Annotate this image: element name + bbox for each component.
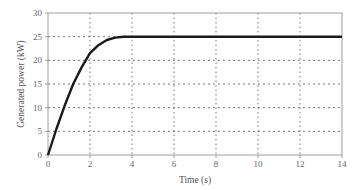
grid-lines bbox=[48, 13, 342, 155]
power-curve bbox=[48, 37, 342, 155]
y-tick-label: 10 bbox=[33, 103, 43, 113]
y-tick-label: 30 bbox=[33, 8, 43, 18]
y-axis-label: Generated power (kW) bbox=[16, 40, 27, 128]
x-tick-label: 0 bbox=[46, 159, 51, 169]
x-tick-label: 4 bbox=[130, 159, 135, 169]
x-tick-label: 6 bbox=[172, 159, 177, 169]
y-tick-label: 5 bbox=[38, 126, 43, 136]
y-tick-label: 0 bbox=[38, 150, 43, 160]
x-tick-label: 8 bbox=[214, 159, 219, 169]
x-tick-label: 12 bbox=[296, 159, 305, 169]
x-axis-label: Time (s) bbox=[179, 175, 211, 186]
y-axis-ticks: 051015202530 bbox=[33, 8, 48, 160]
x-tick-label: 10 bbox=[254, 159, 264, 169]
y-tick-label: 25 bbox=[33, 32, 43, 42]
y-tick-label: 20 bbox=[33, 55, 43, 65]
x-tick-label: 2 bbox=[88, 159, 93, 169]
x-axis-ticks: 02468101214 bbox=[46, 155, 347, 169]
power-vs-time-chart: 051015202530 02468101214 Time (s) Genera… bbox=[0, 0, 364, 190]
x-tick-label: 14 bbox=[338, 159, 348, 169]
y-tick-label: 15 bbox=[33, 79, 43, 89]
